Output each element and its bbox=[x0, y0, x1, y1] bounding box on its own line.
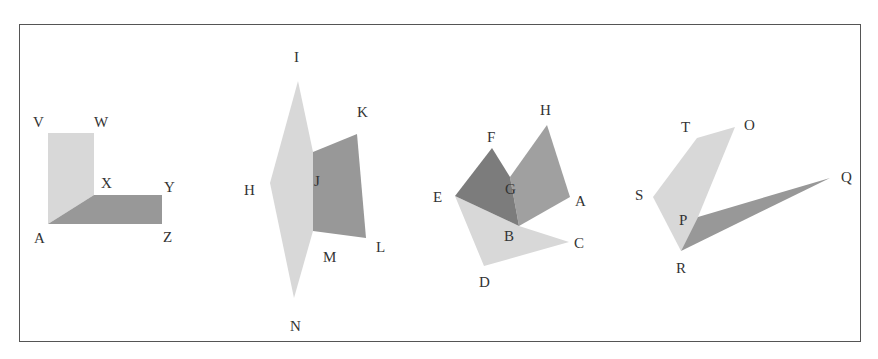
label-f: F bbox=[487, 129, 495, 145]
figure-hijklmn: I K H J L M N bbox=[244, 49, 385, 334]
label-a2: A bbox=[575, 193, 586, 209]
label-c: C bbox=[574, 235, 584, 251]
label-z: Z bbox=[163, 229, 172, 245]
figure-abcdefgh: F H E G A B C D bbox=[433, 102, 586, 290]
label-e: E bbox=[433, 189, 442, 205]
label-l: L bbox=[376, 239, 385, 255]
label-t: T bbox=[681, 119, 690, 135]
label-v: V bbox=[33, 114, 44, 130]
label-j: J bbox=[314, 173, 320, 189]
label-h: H bbox=[244, 182, 255, 198]
figure-vwxyz: V W X Y A Z bbox=[33, 114, 175, 246]
label-i: I bbox=[294, 49, 299, 65]
label-q: Q bbox=[841, 169, 852, 185]
label-s: S bbox=[635, 187, 643, 203]
label-b: B bbox=[504, 228, 514, 244]
label-g: G bbox=[505, 181, 516, 197]
label-d: D bbox=[479, 274, 490, 290]
label-n: N bbox=[290, 318, 301, 334]
label-x: X bbox=[101, 175, 112, 191]
label-y: Y bbox=[164, 179, 175, 195]
label-r: R bbox=[676, 260, 686, 276]
label-k: K bbox=[357, 104, 368, 120]
label-w: W bbox=[94, 114, 109, 130]
label-h2: H bbox=[540, 102, 551, 118]
label-o: O bbox=[744, 117, 755, 133]
label-p: P bbox=[679, 212, 687, 228]
label-a: A bbox=[34, 230, 45, 246]
label-m: M bbox=[323, 249, 336, 265]
geometry-figure: V W X Y A Z I K H J L M N F H E G A B C … bbox=[0, 0, 878, 359]
face-jklm bbox=[313, 134, 366, 238]
face-ihn bbox=[270, 81, 313, 298]
figure-opqrst: T O S P Q R bbox=[635, 117, 852, 276]
face-ghab bbox=[510, 125, 570, 226]
